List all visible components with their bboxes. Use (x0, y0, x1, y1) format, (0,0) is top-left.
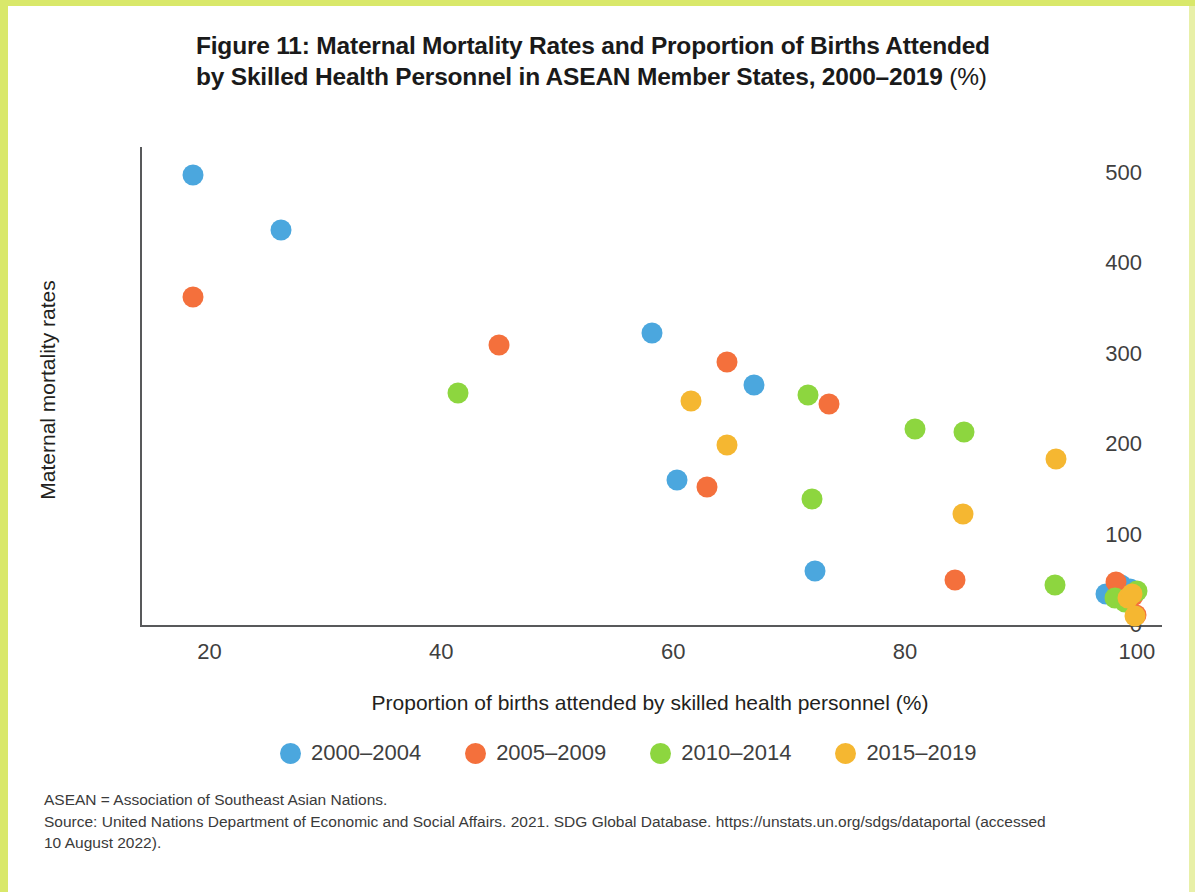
y-axis-title: Maternal mortality rates (36, 280, 60, 499)
y-tick-label: 400 (1105, 250, 1142, 276)
y-tick-label: 100 (1105, 522, 1142, 548)
legend-label: 2005–2009 (496, 740, 606, 766)
data-point (696, 476, 717, 497)
data-point (642, 323, 663, 344)
legend-label: 2000–2004 (311, 740, 421, 766)
legend-item[interactable]: 2015–2019 (835, 740, 976, 766)
data-point (716, 435, 737, 456)
data-point (1122, 584, 1143, 605)
data-point (802, 489, 823, 510)
x-axis-title: Proportion of births attended by skilled… (372, 691, 929, 715)
legend-label: 2015–2019 (866, 740, 976, 766)
figure-container: Figure 11: Maternal Mortality Rates and … (0, 0, 1195, 892)
x-axis-line (140, 625, 1162, 627)
note-abbreviation: ASEAN = Association of Southeast Asian N… (44, 789, 1164, 811)
note-source-continued: 10 August 2022). (44, 832, 1164, 854)
figure-notes: ASEAN = Association of Southeast Asian N… (44, 789, 1164, 854)
x-tick-label: 60 (661, 639, 685, 665)
y-tick-label: 300 (1105, 341, 1142, 367)
data-point (1044, 575, 1065, 596)
x-tick-label: 80 (893, 639, 917, 665)
note-source: Source: United Nations Department of Eco… (44, 811, 1164, 833)
figure-title-percent: (%) (949, 63, 987, 90)
y-axis-line (140, 147, 142, 625)
legend-swatch-icon (280, 743, 301, 764)
data-point (944, 569, 965, 590)
figure-title-line1: Figure 11: Maternal Mortality Rates and … (196, 32, 990, 59)
data-point (818, 394, 839, 415)
legend-label: 2010–2014 (681, 740, 791, 766)
figure-title-line2: by Skilled Health Personnel in ASEAN Mem… (196, 63, 949, 90)
data-point (744, 375, 765, 396)
data-point (1124, 605, 1145, 626)
legend-item[interactable]: 2010–2014 (650, 740, 791, 766)
y-tick-label: 200 (1105, 431, 1142, 457)
data-point (666, 470, 687, 491)
data-point (804, 560, 825, 581)
data-point (954, 422, 975, 443)
legend-swatch-icon (835, 743, 856, 764)
data-point (716, 351, 737, 372)
legend-item[interactable]: 2005–2009 (465, 740, 606, 766)
data-point (489, 334, 510, 355)
x-tick-label: 100 (1118, 639, 1155, 665)
data-point (271, 220, 292, 241)
figure-title: Figure 11: Maternal Mortality Rates and … (196, 30, 1046, 92)
data-point (1045, 448, 1066, 469)
scatter-plot-area: 0100200300400500 20406080100 Maternal mo… (140, 155, 1160, 625)
data-point (952, 503, 973, 524)
x-tick-label: 40 (429, 639, 453, 665)
data-point (183, 164, 204, 185)
legend-item[interactable]: 2000–2004 (280, 740, 421, 766)
data-point (447, 382, 468, 403)
x-tick-label: 20 (197, 639, 221, 665)
data-point (680, 390, 701, 411)
data-point (797, 385, 818, 406)
legend-swatch-icon (650, 743, 671, 764)
legend-swatch-icon (465, 743, 486, 764)
data-point (183, 286, 204, 307)
data-point (905, 418, 926, 439)
chart-legend: 2000–20042005–20092010–20142015–2019 (280, 740, 1021, 766)
y-tick-label: 500 (1105, 160, 1142, 186)
